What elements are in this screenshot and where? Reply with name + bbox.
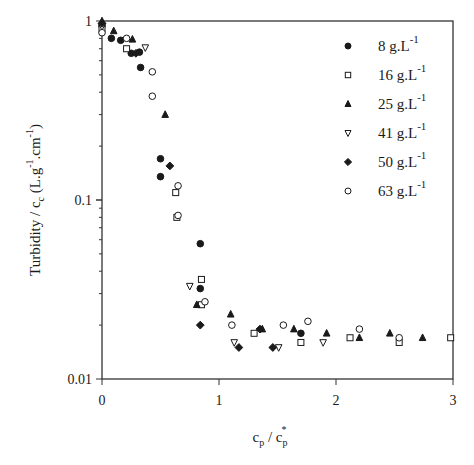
y-axis-ticks [96,21,102,379]
series-8-gpl [99,23,305,337]
legend-item: 63 g.L-1 [345,178,426,199]
circle-marker [157,155,164,162]
legend-label: 41 g.L-1 [378,120,426,141]
legend-item: 50 g.L-1 [344,149,426,170]
series-50-gpl [98,19,277,351]
legend-item: 8 g.L-1 [345,33,419,54]
circle-marker [305,318,312,325]
x-axis-title: cp / cp* [253,424,288,448]
circle-marker [157,173,164,180]
series-41-gpl [99,24,327,351]
x-tick-label: 2 [333,393,340,408]
y-axis-title: Turbidity / cc (L.g-1.cm-1) [24,124,46,276]
circle-marker [202,298,209,305]
y-tick-label: 0.01 [68,372,93,387]
triangle-down-marker [320,340,327,347]
series-63-gpl [99,29,403,341]
y-tick-label: 1 [85,14,92,29]
circle-marker [149,69,156,76]
x-axis-ticks [102,379,453,385]
triangle-up-marker [345,101,351,107]
circle-marker [137,64,144,71]
circle-marker [123,35,130,42]
circle-marker [345,43,351,49]
circle-marker [99,29,106,36]
triangle-up-marker [291,325,298,332]
triangle-down-marker [142,45,149,52]
legend-label: 8 g.L-1 [378,33,419,54]
square-marker [448,335,454,341]
diamond-marker [344,158,351,165]
x-tick-label: 0 [99,393,106,408]
triangle-up-marker [227,310,234,317]
y-tick-label: 0.1 [75,193,93,208]
legend-item: 25 g.L-1 [345,91,426,112]
series-25-gpl [99,17,426,340]
legend-label: 63 g.L-1 [378,178,426,199]
circle-marker [298,330,305,337]
legend-item: 16 g.L-1 [345,62,426,83]
square-marker [173,190,179,196]
triangle-up-marker [419,334,426,341]
square-marker [298,339,304,345]
circle-marker [229,322,236,329]
circle-marker [197,240,204,247]
x-tick-label: 1 [216,393,223,408]
triangle-up-marker [110,27,117,34]
circle-marker [175,212,182,219]
circle-marker [149,93,156,100]
circle-marker [197,285,204,292]
circle-marker [345,188,351,194]
legend-item: 41 g.L-1 [345,120,426,141]
diamond-marker [166,162,174,170]
square-marker [345,72,350,77]
square-marker [124,46,130,52]
x-tick-label: 3 [450,393,457,408]
legend-label: 50 g.L-1 [378,149,426,170]
turbidity-chart: 01230.010.11 8 g.L-116 g.L-125 g.L-141 g… [0,0,474,465]
triangle-down-marker [345,131,351,137]
legend-label: 16 g.L-1 [378,62,426,83]
legend-label: 25 g.L-1 [378,91,426,112]
square-marker [198,276,204,282]
triangle-up-marker [356,334,363,341]
circle-marker [175,183,182,190]
triangle-up-marker [323,330,330,337]
legend: 8 g.L-116 g.L-125 g.L-141 g.L-150 g.L-16… [344,33,426,199]
circle-marker [356,326,363,333]
triangle-up-marker [387,330,394,337]
circle-marker [280,322,287,329]
diamond-marker [196,321,204,329]
square-marker [251,330,257,336]
diamond-marker [235,344,243,352]
triangle-down-marker [186,283,193,290]
circle-marker [396,334,403,341]
square-marker [347,335,353,341]
triangle-up-marker [162,111,169,118]
circle-marker [108,35,115,42]
